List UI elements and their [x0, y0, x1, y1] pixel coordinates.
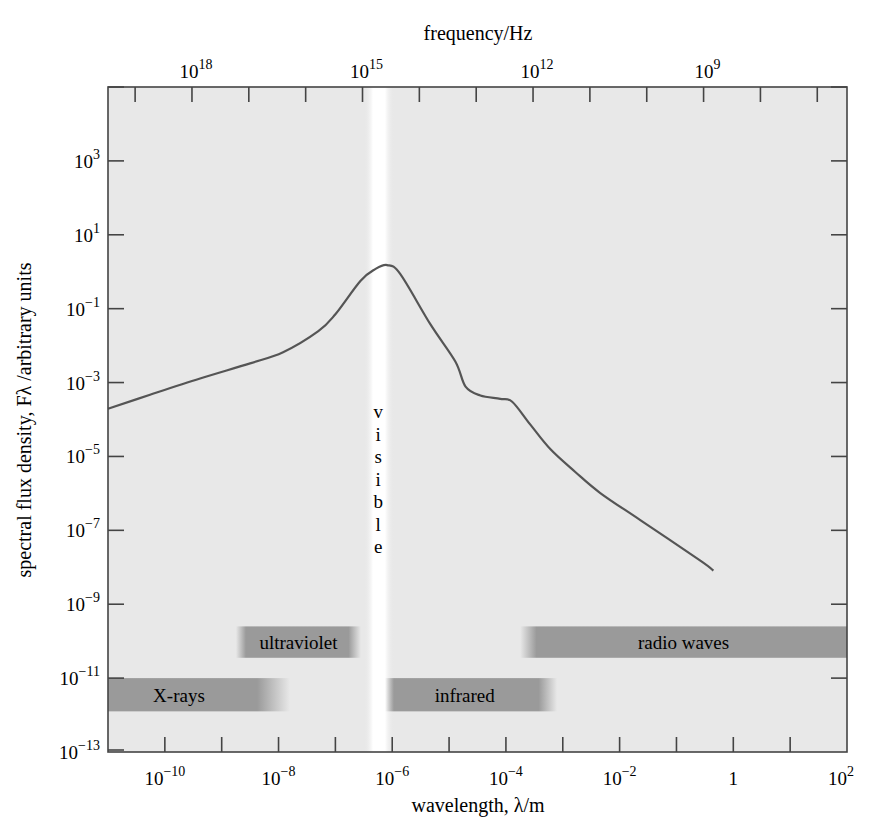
- band-radio-waves: radio waves: [520, 626, 847, 657]
- tick-label: 10−8: [262, 764, 296, 789]
- svg-text:v: v: [373, 401, 383, 422]
- band-label: infrared: [435, 685, 496, 706]
- band-label: X-rays: [153, 685, 205, 706]
- svg-text:b: b: [373, 491, 383, 512]
- tick-label: 103: [74, 147, 100, 172]
- tick-label: 10−7: [66, 516, 100, 541]
- svg-text:i: i: [376, 424, 381, 445]
- tick-label: 101: [74, 221, 100, 246]
- tick-label: 10−11: [60, 664, 100, 689]
- tick-label: 10−13: [59, 738, 100, 763]
- tick-label: 1012: [521, 57, 554, 82]
- x-axis-title: wavelength, λ/m: [412, 794, 545, 817]
- band-infrared: infrared: [372, 678, 557, 711]
- svg-text:i: i: [376, 469, 381, 490]
- tick-label: 1018: [179, 57, 212, 82]
- svg-text:l: l: [376, 514, 381, 535]
- tick-label: 1: [729, 768, 739, 789]
- tick-label: 10−3: [66, 369, 100, 394]
- tick-label: 102: [828, 764, 854, 789]
- band-x-rays: X-rays: [108, 678, 290, 711]
- tick-label: 10−1: [66, 295, 100, 320]
- tick-label: 1015: [350, 57, 383, 82]
- svg-text:s: s: [374, 446, 381, 467]
- band-ultraviolet: ultraviolet: [236, 626, 361, 657]
- band-label: ultraviolet: [259, 632, 338, 653]
- tick-label: 10−6: [375, 764, 409, 789]
- tick-label: 10−2: [603, 764, 637, 789]
- top-axis-title: frequency/Hz: [424, 22, 533, 45]
- spectrum-chart: ultravioletradio wavesX-raysinfrared vis…: [0, 0, 886, 836]
- tick-label: 10−9: [66, 590, 100, 615]
- tick-label: 109: [695, 57, 721, 82]
- band-label: radio waves: [638, 632, 729, 653]
- y-axis-title: spectral flux density, Fλ /arbitrary uni…: [13, 262, 36, 577]
- tick-label: 10−5: [66, 442, 100, 467]
- tick-label: 10−4: [489, 764, 523, 789]
- svg-text:e: e: [374, 536, 382, 557]
- tick-label: 10−10: [144, 764, 185, 789]
